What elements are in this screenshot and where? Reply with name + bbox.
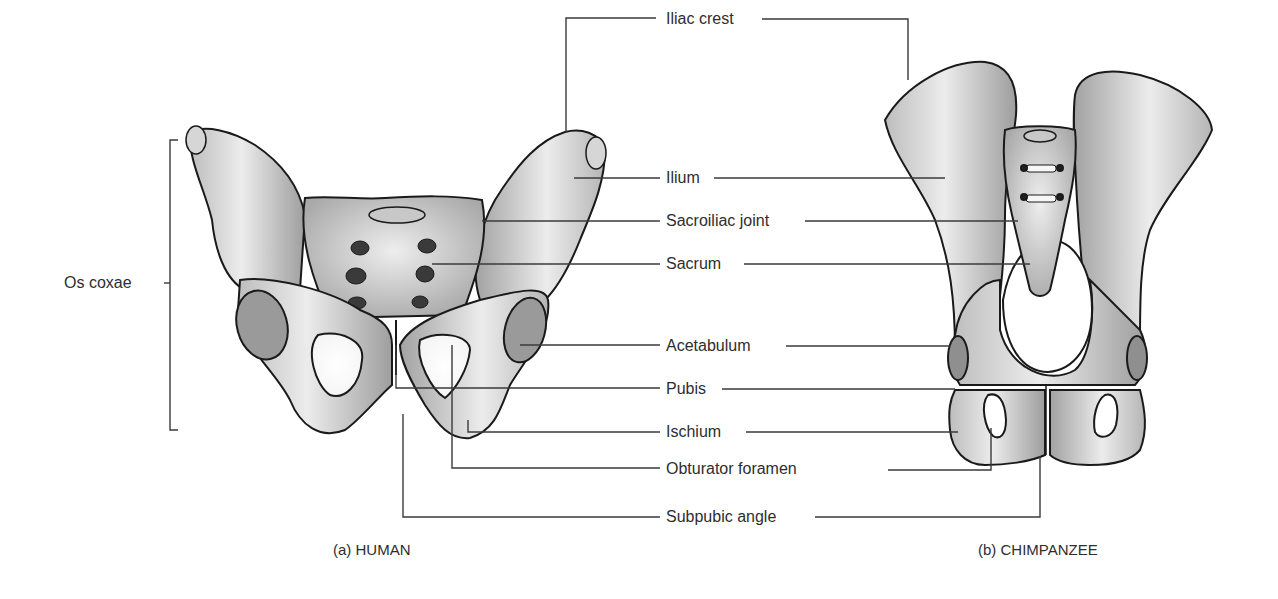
label-os-coxae: Os coxae xyxy=(60,274,136,292)
caption-human: (a) HUMAN xyxy=(333,541,411,558)
label-ilium: Ilium xyxy=(662,169,704,187)
chimp-sacral-canal xyxy=(1024,130,1056,142)
label-iliac-crest: Iliac crest xyxy=(662,10,738,28)
diagram-canvas xyxy=(0,0,1278,599)
caption-chimpanzee: (b) CHIMPANZEE xyxy=(978,541,1098,558)
os-coxae-bracket xyxy=(170,140,178,430)
human-pelvis-illustration xyxy=(186,126,606,438)
human-sacral-canal xyxy=(369,207,425,223)
human-left-ilium xyxy=(190,129,305,298)
label-ischium: Ischium xyxy=(662,423,725,441)
label-sacroiliac-joint: Sacroiliac joint xyxy=(662,212,773,230)
label-sacrum: Sacrum xyxy=(662,255,725,273)
chimp-left-acetabulum xyxy=(948,336,968,380)
label-obturator-foramen: Obturator foramen xyxy=(662,460,801,478)
chimp-right-acetabulum xyxy=(1127,336,1147,380)
label-subpubic-angle: Subpubic angle xyxy=(662,508,780,526)
label-pubis: Pubis xyxy=(662,380,710,398)
label-acetabulum: Acetabulum xyxy=(662,337,755,355)
